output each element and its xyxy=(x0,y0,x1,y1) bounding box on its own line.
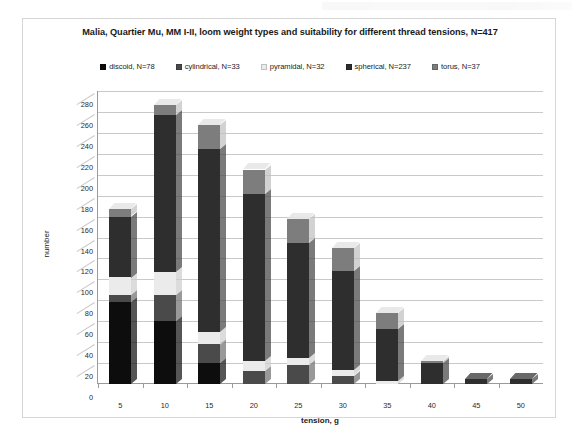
bar-segment-discoid[interactable] xyxy=(109,302,131,384)
legend-item-discoid[interactable]: discoid, N=78 xyxy=(100,62,155,71)
x-axis-tick-label: 15 xyxy=(205,401,213,410)
bar-segment-pyramidal[interactable] xyxy=(376,381,398,384)
bar-segment-pyramidal[interactable] xyxy=(332,370,354,375)
bar-segment-discoid[interactable] xyxy=(198,363,220,384)
bar-segment-cylindrical[interactable] xyxy=(287,365,309,384)
bar-segment-cylindrical[interactable] xyxy=(198,344,220,363)
x-axis-tick-mark xyxy=(98,384,99,388)
legend-item-torus[interactable]: torus, N=37 xyxy=(432,62,480,71)
x-axis-tick-mark xyxy=(187,384,188,388)
bar-segment-pyramidal[interactable] xyxy=(243,361,265,371)
legend-swatch-icon xyxy=(346,64,352,70)
bar-segment-spherical[interactable] xyxy=(154,115,176,272)
x-axis-tick-mark xyxy=(499,384,500,388)
bar-segment-pyramidal[interactable] xyxy=(198,332,220,345)
legend-label: discoid, N=78 xyxy=(109,62,155,71)
y-axis-tick-label: 120 xyxy=(81,267,93,276)
y-axis-title: number xyxy=(42,230,51,257)
chart-legend: discoid, N=78cylindrical, N=33pyramidal,… xyxy=(43,62,537,71)
scan-header-artifact xyxy=(322,2,572,10)
legend-item-spherical[interactable]: spherical, N=237 xyxy=(346,62,411,71)
y-axis-tick-label: 100 xyxy=(81,288,93,297)
bar-column-45g[interactable] xyxy=(465,379,487,384)
x-axis-tick-label: 45 xyxy=(472,401,480,410)
bar-segment-torus[interactable] xyxy=(243,170,265,194)
bar-column-10g[interactable] xyxy=(154,105,176,384)
y-axis-tick-label: 40 xyxy=(85,351,93,360)
bar-segment-side-face xyxy=(176,316,182,384)
bar-column-20g[interactable] xyxy=(243,169,265,384)
bar-segment-side-face xyxy=(220,144,226,332)
legend-label: spherical, N=237 xyxy=(355,62,411,71)
bar-top-face xyxy=(154,99,182,105)
bar-segment-discoid[interactable] xyxy=(154,321,176,384)
bar-segment-pyramidal[interactable] xyxy=(109,277,131,295)
legend-item-pyramidal[interactable]: pyramidal, N=32 xyxy=(261,62,325,71)
bar-segment-cylindrical[interactable] xyxy=(332,376,354,384)
bar-segment-torus[interactable] xyxy=(376,313,398,329)
y-axis-tick-label: 220 xyxy=(81,162,93,171)
bar-segment-side-face xyxy=(265,164,271,193)
x-axis-tick-mark xyxy=(321,384,322,388)
bar-segment-side-face xyxy=(309,214,315,243)
x-axis-tick-label: 50 xyxy=(517,401,525,410)
bar-segment-torus[interactable] xyxy=(154,105,176,115)
y-axis-tick-label: 180 xyxy=(81,204,93,213)
bar-segment-spherical[interactable] xyxy=(287,243,309,358)
y-axis-tick-label: 60 xyxy=(85,330,93,339)
bar-segment-pyramidal[interactable] xyxy=(154,272,176,295)
bar-segment-spherical[interactable] xyxy=(465,379,487,384)
legend-swatch-icon xyxy=(100,64,106,70)
bar-segment-spherical[interactable] xyxy=(332,271,354,370)
bar-segment-spherical[interactable] xyxy=(421,363,443,384)
bar-segment-torus[interactable] xyxy=(421,361,443,363)
bar-segment-torus[interactable] xyxy=(198,125,220,149)
bar-segment-pyramidal[interactable] xyxy=(287,358,309,365)
bar-segment-side-face xyxy=(131,297,137,384)
bar-segment-spherical[interactable] xyxy=(109,217,131,278)
bar-segment-torus[interactable] xyxy=(287,219,309,243)
y-axis-tick-label: 20 xyxy=(85,372,93,381)
legend-swatch-icon xyxy=(176,64,182,70)
x-axis-tick-label: 35 xyxy=(383,401,391,410)
gridline xyxy=(97,91,543,92)
bar-segment-cylindrical[interactable] xyxy=(109,295,131,302)
bar-column-50g[interactable] xyxy=(510,379,532,384)
bar-column-15g[interactable] xyxy=(198,125,220,385)
bar-segment-spherical[interactable] xyxy=(376,329,398,381)
bar-segment-spherical[interactable] xyxy=(510,379,532,384)
bar-segment-side-face xyxy=(354,266,360,370)
x-axis-tick-label: 10 xyxy=(161,401,169,410)
y-axis-tick-label: 260 xyxy=(81,120,93,129)
y-axis-tick-label: 80 xyxy=(85,309,93,318)
x-axis-tick-label: 40 xyxy=(428,401,436,410)
y-axis-tick-label: 200 xyxy=(81,183,93,192)
bar-column-40g[interactable] xyxy=(421,361,443,384)
chart-title: Malia, Quartier Mu, MM I-II, loom weight… xyxy=(53,26,527,39)
x-axis-tick-mark xyxy=(454,384,455,388)
bar-segment-cylindrical[interactable] xyxy=(243,371,265,384)
y-axis-tick-label: 160 xyxy=(81,225,93,234)
x-axis-title: tension, g xyxy=(97,416,543,425)
bar-segment-torus[interactable] xyxy=(332,248,354,271)
bar-column-25g[interactable] xyxy=(287,219,309,384)
bar-segment-spherical[interactable] xyxy=(243,194,265,361)
bar-segment-side-face xyxy=(309,238,315,358)
bar-segment-side-face xyxy=(398,324,404,381)
bar-segment-spherical[interactable] xyxy=(198,149,220,332)
y-axis-tick-label: 0 xyxy=(89,393,93,402)
bar-column-30g[interactable] xyxy=(332,248,354,384)
bar-column-5g[interactable] xyxy=(109,209,131,384)
bar-segment-side-face xyxy=(176,110,182,272)
bar-segment-torus[interactable] xyxy=(109,209,131,216)
bar-column-35g[interactable] xyxy=(376,313,398,384)
x-axis-tick-mark xyxy=(276,384,277,388)
x-axis-tick-label: 25 xyxy=(294,401,302,410)
bar-top-face xyxy=(510,373,538,379)
bar-segment-cylindrical[interactable] xyxy=(154,295,176,321)
x-axis-tick-label: 30 xyxy=(339,401,347,410)
x-axis-tick-label: 20 xyxy=(250,401,258,410)
chart-frame: Malia, Quartier Mu, MM I-II, loom weight… xyxy=(22,18,556,418)
legend-item-cylindrical[interactable]: cylindrical, N=33 xyxy=(176,62,240,71)
legend-label: torus, N=37 xyxy=(441,62,480,71)
